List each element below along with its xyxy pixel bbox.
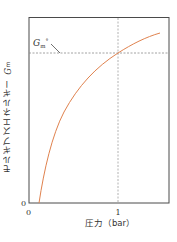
plot-frame bbox=[29, 18, 169, 204]
x-tick-0: 0 bbox=[26, 208, 31, 217]
annotation-gm-standard: Gm° bbox=[33, 37, 48, 49]
annotation-leader bbox=[51, 44, 60, 53]
y-axis-label: モルギブズエネルギー Gm bbox=[2, 30, 20, 205]
y-tick-0: 0 bbox=[21, 199, 26, 208]
gibbs-energy-curve bbox=[39, 33, 160, 203]
x-axis-label: 圧力（bar） bbox=[70, 216, 150, 228]
chart-canvas: Gm° 0 0 1 bbox=[0, 0, 177, 242]
